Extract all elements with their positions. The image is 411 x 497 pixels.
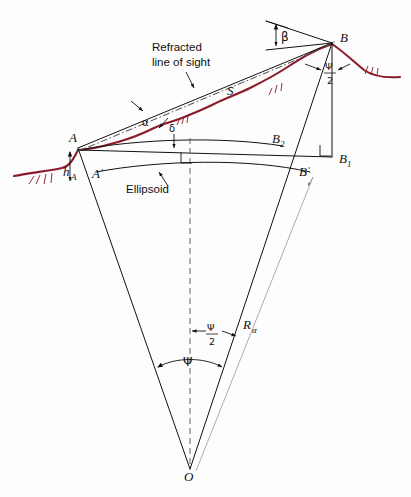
psi-half-bottom-numerator: Ψ: [207, 322, 214, 333]
delta-label: δ: [169, 123, 175, 134]
point-b1-subscript: 1: [347, 159, 352, 169]
point-b1-symbol: B: [339, 151, 347, 166]
refraction-diagram-figure: β Ψ 2 α δ h A Ψ 2 Ψ A Aˈ B Bˈ: [0, 0, 411, 497]
point-a-label: A: [68, 130, 77, 145]
height-a-symbol: h: [63, 164, 70, 179]
alpha-label: α: [142, 117, 149, 128]
radius-alpha-subscript: α: [252, 325, 257, 335]
refracted-line-label-line1: Refracted: [152, 41, 202, 53]
height-a-subscript: A: [70, 172, 77, 182]
point-b2-symbol: B: [272, 131, 280, 146]
beta-label: β: [281, 30, 289, 44]
point-b2-subscript: 2: [280, 139, 285, 149]
geodetic-diagram-canvas: β Ψ 2 α δ h A Ψ 2 Ψ A Aˈ B Bˈ: [0, 0, 411, 497]
psi-half-top-denominator: 2: [327, 75, 333, 86]
ellipsoid-label: Ellipsoid: [126, 183, 169, 195]
psi-half-bottom-denominator: 2: [209, 336, 215, 347]
slope-distance-label: S: [227, 83, 234, 98]
point-o-label: O: [184, 469, 194, 484]
refracted-line-label-line2: line of sight: [152, 56, 211, 68]
point-b-prime-label: Bˈ: [299, 164, 311, 179]
point-b-label: B: [340, 30, 348, 45]
point-a-prime-label: Aˈ: [91, 166, 104, 181]
psi-label: Ψ: [183, 355, 192, 369]
radius-alpha-symbol: R: [242, 317, 251, 332]
psi-half-top-numerator: Ψ: [325, 61, 332, 72]
